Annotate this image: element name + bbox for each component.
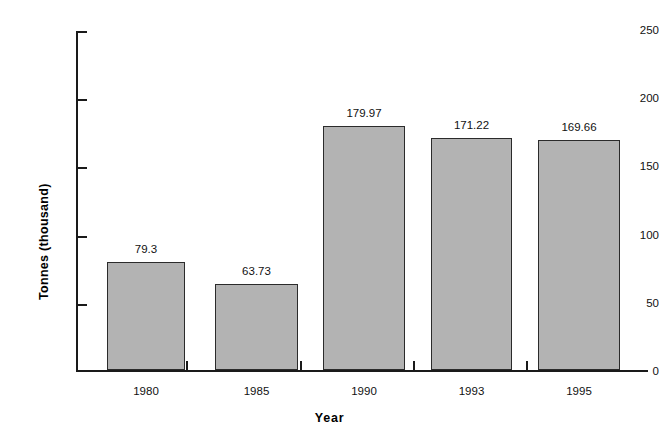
- y-axis-line: [76, 31, 78, 372]
- x-tick-mark-3: [413, 361, 415, 371]
- x-category-label-1993: 1993: [431, 386, 512, 398]
- y-tick-mark-150: [78, 167, 87, 169]
- x-category-label-1990: 1990: [323, 386, 405, 398]
- bar-1990[interactable]: [323, 126, 405, 370]
- x-tick-mark-1: [186, 361, 188, 371]
- x-tick-mark-2: [300, 361, 302, 371]
- bar-value-1995: 169.66: [538, 122, 620, 134]
- y-tick-mark-250: [78, 31, 87, 33]
- x-category-label-1995: 1995: [538, 386, 620, 398]
- x-axis-line: [76, 370, 648, 372]
- x-tick-mark-4: [526, 361, 528, 371]
- bar-chart: Tonnes (thousand) 250 200 150 100 50 0 7…: [0, 0, 659, 437]
- bar-1985[interactable]: [215, 284, 298, 370]
- x-category-label-1980: 1980: [107, 386, 185, 398]
- bar-value-1993: 171.22: [431, 120, 512, 132]
- y-tick-mark-200: [78, 99, 87, 101]
- bar-1995[interactable]: [538, 140, 620, 370]
- x-category-label-1985: 1985: [215, 386, 298, 398]
- bar-value-1990: 179.97: [323, 108, 405, 120]
- y-tick-mark-50: [78, 304, 87, 306]
- bar-value-1980: 79.3: [107, 244, 185, 256]
- x-axis-title: Year: [0, 411, 659, 425]
- bar-1980[interactable]: [107, 262, 185, 370]
- bar-value-1985: 63.73: [215, 266, 298, 278]
- plot-area: 79.3 63.73 179.97 171.22 169.66 1980 198…: [76, 31, 648, 372]
- bar-1993[interactable]: [431, 138, 512, 370]
- y-tick-mark-100: [78, 236, 87, 238]
- y-axis-title: Tonnes (thousand): [34, 0, 54, 300]
